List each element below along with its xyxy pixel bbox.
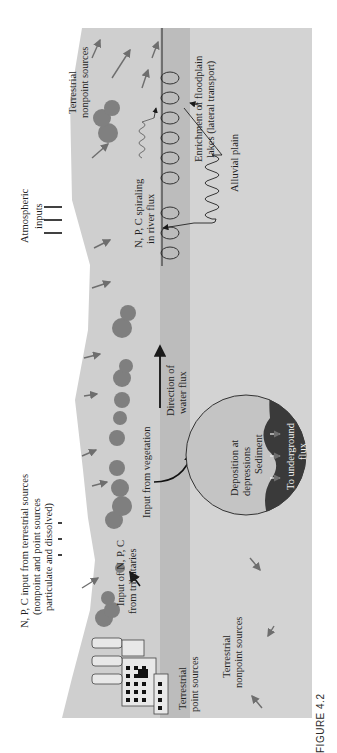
label-terrestrial-nonpoint-lower-2: nonpoint sources [233, 617, 244, 688]
label-enrichment-1: Enrichment of floodplain [193, 55, 204, 162]
label-npc-input-2: (nonpoint and point sources [31, 498, 43, 615]
label-terrestrial-point-1: Terrestrial [177, 667, 188, 710]
label-underground-1: To underground [285, 422, 296, 490]
label-input-tributaries-1: Input of N, P, C [115, 540, 126, 606]
diagram-canvas: Terrestrial point sources Terrestrial no… [62, 28, 312, 718]
label-direction-flux-1: Direction of [165, 364, 176, 416]
figure-caption: FIGURE 4.2 [315, 694, 326, 753]
label-input-vegetation: Input from vegetation [141, 426, 152, 518]
terrestrial-input-arrows [58, 523, 62, 555]
atmospheric-arrows [44, 207, 62, 233]
label-npc-input-1: N, P, C input from terrestrial sources [19, 474, 30, 628]
label-deposition-1: Deposition at [229, 440, 240, 496]
label-npc-input-3: particulate and dissolved) [43, 503, 55, 611]
label-terrestrial-nonpoint-upper-2: nonpoint sources [79, 47, 90, 118]
label-sediment: Sediment [253, 434, 264, 474]
label-input-tributaries-2: from tributaries [127, 548, 138, 614]
label-underground-2: flux [297, 442, 308, 460]
label-atmospheric-1: Atmospheric [19, 188, 30, 243]
label-npc-spiraling-1: N, P, C spiraling [133, 178, 144, 248]
label-terrestrial-point-2: point sources [189, 656, 200, 712]
label-direction-flux-2: water flux [177, 370, 188, 414]
outside-labels: N, P, C input from terrestrial sources (… [0, 0, 62, 753]
label-npc-spiraling-2: in river flux [145, 193, 156, 244]
label-alluvial-plain: Alluvial plain [229, 133, 240, 192]
label-deposition-2: depressions [241, 447, 252, 496]
label-enrichment-2: lakes (lateral transport) [205, 60, 217, 158]
label-terrestrial-nonpoint-upper-1: Terrestrial [67, 71, 78, 114]
label-terrestrial-nonpoint-lower-1: Terrestrial [221, 635, 232, 678]
label-atmospheric-2: inputs [33, 203, 44, 229]
